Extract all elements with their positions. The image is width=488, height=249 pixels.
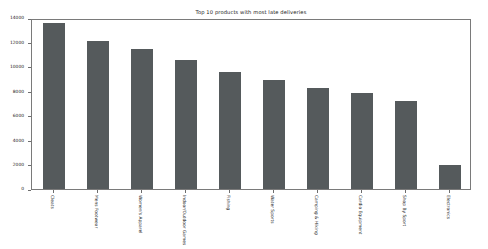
y-tick-mark <box>28 43 31 44</box>
y-tick-label: 4000 <box>13 138 24 144</box>
x-tick-mark <box>97 190 98 193</box>
y-tick-label: 10000 <box>10 64 24 70</box>
x-tick-mark <box>361 190 362 193</box>
x-tick-label: Water Sports <box>270 195 275 223</box>
y-tick-label: 2000 <box>13 162 24 168</box>
bar <box>43 23 65 189</box>
x-tick-label: Mens Footwear <box>94 195 99 228</box>
bar <box>439 165 461 189</box>
x-tick-label: Cardio Equipment <box>358 195 363 234</box>
y-tick-mark <box>28 141 31 142</box>
x-tick-mark <box>229 190 230 193</box>
bar <box>219 72 241 189</box>
x-tick-label: Camping & Hiking <box>314 195 319 235</box>
bar <box>263 80 285 189</box>
x-tick-mark <box>185 190 186 193</box>
bar <box>395 101 417 189</box>
y-tick-mark <box>28 116 31 117</box>
x-tick-label: Women's Apparel <box>138 195 143 233</box>
bar <box>87 41 109 189</box>
x-tick-mark <box>405 190 406 193</box>
bar <box>307 88 329 189</box>
y-tick-label: 8000 <box>13 89 24 95</box>
y-tick-mark <box>28 165 31 166</box>
x-tick-label: Indoor/Outdoor Games <box>182 195 187 245</box>
x-tick-label: Cleats <box>50 195 55 209</box>
x-tick-mark <box>53 190 54 193</box>
bar <box>175 60 197 189</box>
x-tick-mark <box>141 190 142 193</box>
y-tick-label: 6000 <box>13 113 24 119</box>
y-tick-mark <box>28 67 31 68</box>
y-tick-label: 12000 <box>10 40 24 46</box>
plot-frame <box>31 19 471 190</box>
y-tick-label: 0 <box>21 186 24 192</box>
chart-figure: Top 10 products with most late deliverie… <box>0 0 488 249</box>
x-tick-mark <box>273 190 274 193</box>
y-tick-mark <box>28 92 31 93</box>
x-tick-label: Fishing <box>226 195 231 210</box>
bar <box>131 49 153 189</box>
y-tick-mark <box>28 190 31 191</box>
x-tick-label: Shop By Sport <box>402 195 407 226</box>
x-tick-mark <box>317 190 318 193</box>
chart-title: Top 10 products with most late deliverie… <box>31 8 471 16</box>
y-tick-label: 14000 <box>10 15 24 21</box>
x-tick-label: Electronics <box>446 195 451 219</box>
plot-area <box>32 20 470 189</box>
y-tick-mark <box>28 19 31 20</box>
x-tick-mark <box>449 190 450 193</box>
bar <box>351 93 373 189</box>
